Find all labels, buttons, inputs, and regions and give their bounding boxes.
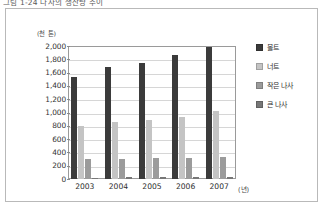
bar [172,55,178,179]
y-axis-tick-label: 800 [52,121,66,130]
bar [146,120,152,179]
bar-chart: (천 톤) 2,0001,8001,6001,4001,2001,0008006… [6,9,319,203]
bar [139,63,145,179]
legend-label: 큰 나사 [267,99,287,109]
bar [186,158,192,179]
bar [71,77,77,179]
bar [220,157,226,179]
legend-swatch-icon [256,101,263,108]
legend-item[interactable]: 큰 나사 [256,99,318,109]
bar [126,177,132,179]
y-axis-tick-label: 2,000 [45,42,66,51]
bar [119,159,125,179]
x-axis-tick-label: 2006 [169,182,203,191]
y-axis-tick-label: 200 [52,161,66,170]
bars-layer [68,46,236,179]
bar [92,178,98,179]
x-axis-tick-label: 2003 [68,182,102,191]
bar [85,159,91,179]
figure-caption: 그림 1-24 나사의 생산량 추이 [3,0,103,6]
bar [160,177,166,179]
x-axis-tick-labels: 20032004200520062007 [68,182,236,196]
x-axis-tick-label: 2005 [135,182,169,191]
bar [153,158,159,179]
legend-item[interactable]: 볼트 [256,42,318,52]
legend-item[interactable]: 작은 나사 [256,80,318,90]
legend-swatch-icon [256,63,263,70]
bar [227,177,233,179]
chart-legend: 볼트너트작은 나사큰 나사 [256,42,318,118]
bar [112,122,118,179]
y-axis-tick-mark [67,179,70,180]
legend-item[interactable]: 너트 [256,61,318,71]
legend-swatch-icon [256,44,263,51]
figure-frame: (천 톤) 2,0001,8001,6001,4001,2001,0008006… [5,8,318,202]
x-axis-unit-label: (년) [238,184,249,194]
legend-label: 작은 나사 [267,80,293,90]
bar [206,47,212,179]
bar-group [139,46,166,179]
y-axis-tick-label: 0 [61,175,66,184]
y-axis-tick-label: 1,200 [45,95,66,104]
y-axis-tick-labels: 2,0001,8001,6001,4001,2001,0008006004002… [28,40,66,185]
legend-label: 너트 [267,61,279,71]
y-axis-unit-label: (천 톤) [37,29,56,38]
y-axis-tick-label: 1,000 [45,108,66,117]
legend-swatch-icon [256,82,263,89]
bar [179,117,185,180]
x-axis-tick-label: 2004 [102,182,136,191]
bar-group [206,46,233,179]
bar-group [105,46,132,179]
y-axis-tick-label: 1,400 [45,81,66,90]
y-axis-tick-label: 400 [52,148,66,157]
legend-label: 볼트 [267,42,279,52]
bar [78,126,84,179]
bar [213,111,219,179]
bar-group [71,46,98,179]
bar-group [172,46,199,179]
x-axis-tick-label: 2007 [202,182,236,191]
y-axis-tick-label: 600 [52,135,66,144]
y-axis-tick-label: 1,800 [45,55,66,64]
y-axis-tick-label: 1,600 [45,68,66,77]
bar [193,177,199,179]
bar [105,67,111,179]
